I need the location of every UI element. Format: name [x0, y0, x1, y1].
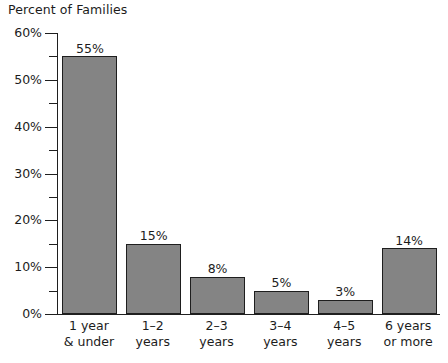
y-axis-tick-label: 20%	[14, 214, 42, 227]
x-axis-category-label: 2–3years	[185, 318, 249, 350]
bar-value-label: 15%	[140, 230, 168, 243]
y-axis-tick-label: 40%	[14, 120, 42, 133]
y-axis-minor-tick	[49, 291, 57, 292]
x-axis-category-labels: 1 year& under1–2years2–3years3–4years4–5…	[57, 318, 440, 360]
y-axis-major-tick	[45, 314, 57, 315]
y-axis-tick-label: 0%	[22, 308, 42, 321]
chart-title: Percent of Families	[8, 2, 127, 17]
y-axis-tick-label: 10%	[14, 261, 42, 274]
y-axis-major-tick	[45, 80, 57, 81]
bar-value-label: 55%	[76, 43, 104, 56]
y-axis-major-tick	[45, 127, 57, 128]
bar-value-label: 14%	[395, 235, 423, 248]
x-axis-category-label: 3–4years	[249, 318, 313, 350]
y-axis-minor-tick	[49, 150, 57, 151]
plot-area: 60%50%40%30%20%10%0% 55%15%8%5%3%14%	[57, 33, 440, 314]
y-axis-minor-tick	[49, 244, 57, 245]
x-axis-category-label: 4–5years	[312, 318, 376, 350]
y-axis-major-tick	[45, 267, 57, 268]
x-axis-line	[57, 314, 440, 315]
x-axis-category-label: 6 yearsor more	[376, 318, 440, 350]
y-axis-minor-tick	[49, 103, 57, 104]
bar: 5%	[254, 291, 309, 314]
bar: 14%	[382, 248, 437, 314]
y-axis-tick-label: 30%	[14, 167, 42, 180]
y-axis-minor-tick	[49, 197, 57, 198]
y-axis-minor-tick	[49, 56, 57, 57]
bar: 8%	[190, 277, 245, 314]
x-axis-category-label: 1 year& under	[57, 318, 121, 350]
bar-value-label: 3%	[335, 286, 355, 299]
bar: 55%	[62, 56, 117, 314]
y-axis-major-tick	[45, 220, 57, 221]
bar: 15%	[126, 244, 181, 314]
bars-group: 55%15%8%5%3%14%	[57, 33, 440, 314]
bar-chart: Percent of Families 60%50%40%30%20%10%0%…	[0, 0, 448, 363]
bar-value-label: 8%	[208, 263, 228, 276]
bar: 3%	[318, 300, 373, 314]
y-axis-tick-label: 60%	[14, 27, 42, 40]
y-axis-tick-label: 50%	[14, 74, 42, 87]
x-axis-category-label: 1–2years	[121, 318, 185, 350]
bar-value-label: 5%	[271, 277, 291, 290]
y-axis-major-tick	[45, 33, 57, 34]
y-axis-major-tick	[45, 174, 57, 175]
